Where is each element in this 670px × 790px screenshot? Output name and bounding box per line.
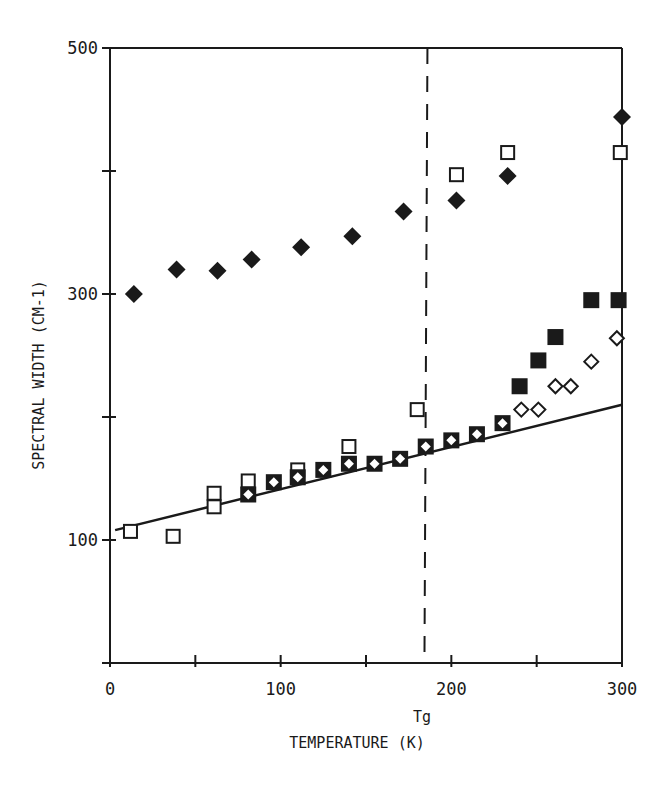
data-point-open-diamond bbox=[514, 403, 528, 417]
data-point-square-with-diamond bbox=[418, 439, 434, 455]
data-point-filled-diamond bbox=[292, 238, 310, 256]
data-point-filled-diamond bbox=[209, 262, 227, 280]
data-point-open-diamond bbox=[548, 379, 562, 393]
data-point-filled-square bbox=[583, 292, 599, 308]
data-point-open-square bbox=[167, 530, 180, 543]
y-tick-label: 100 bbox=[67, 530, 98, 550]
data-point-open-square bbox=[242, 474, 255, 487]
data-marks bbox=[115, 108, 631, 543]
data-point-open-square bbox=[450, 168, 463, 181]
data-point-square-with-diamond bbox=[341, 456, 357, 472]
data-point-filled-diamond bbox=[125, 285, 143, 303]
data-point-filled-square bbox=[547, 329, 563, 345]
y-tick-label: 500 bbox=[67, 38, 98, 58]
data-point-open-diamond bbox=[564, 379, 578, 393]
data-point-square-with-diamond bbox=[266, 474, 282, 490]
data-point-filled-diamond bbox=[613, 108, 631, 126]
data-point-open-square bbox=[411, 403, 424, 416]
data-point-square-with-diamond bbox=[367, 456, 383, 472]
data-point-square-with-diamond bbox=[240, 486, 256, 502]
data-point-open-square bbox=[501, 146, 514, 159]
data-point-square-with-diamond bbox=[315, 462, 331, 478]
data-point-filled-square bbox=[530, 352, 546, 368]
data-point-open-square bbox=[124, 525, 137, 538]
axes: 0100200300100300500 bbox=[67, 38, 637, 699]
data-point-square-with-diamond bbox=[495, 415, 511, 431]
data-point-filled-diamond bbox=[243, 251, 261, 269]
data-point-filled-diamond bbox=[499, 167, 517, 185]
data-point-square-with-diamond bbox=[443, 432, 459, 448]
data-point-open-diamond bbox=[584, 355, 598, 369]
data-point-open-diamond bbox=[531, 403, 545, 417]
data-point-open-square bbox=[208, 487, 221, 500]
data-point-filled-square bbox=[611, 292, 627, 308]
data-point-open-square bbox=[342, 440, 355, 453]
data-point-filled-diamond bbox=[168, 260, 186, 278]
y-axis-title: SPECTRAL WIDTH (CM-1) bbox=[30, 280, 48, 470]
data-point-filled-diamond bbox=[395, 203, 413, 221]
tg-dashed-line bbox=[424, 48, 427, 663]
x-axis-title: TEMPERATURE (K) bbox=[289, 734, 424, 752]
y-tick-label: 300 bbox=[67, 284, 98, 304]
data-point-square-with-diamond bbox=[392, 451, 408, 467]
data-point-square-with-diamond bbox=[290, 469, 306, 485]
data-point-filled-diamond bbox=[343, 227, 361, 245]
data-point-square-with-diamond bbox=[469, 426, 485, 442]
data-point-filled-square bbox=[512, 378, 528, 394]
x-tick-label: 200 bbox=[436, 679, 467, 699]
x-tick-label: 300 bbox=[607, 679, 638, 699]
chart: 0100200300100300500 TEMPERATURE (K) SPEC… bbox=[0, 0, 670, 790]
data-point-filled-diamond bbox=[447, 192, 465, 210]
x-tick-label: 100 bbox=[265, 679, 296, 699]
x-tick-label: 0 bbox=[105, 679, 115, 699]
data-point-open-square bbox=[614, 146, 627, 159]
data-point-open-square bbox=[208, 500, 221, 513]
tg-annotation: Tg bbox=[413, 708, 431, 726]
